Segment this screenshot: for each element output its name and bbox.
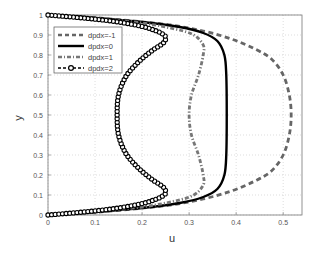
x-tick-label: 0.3 [184,219,194,226]
circle-marker-icon [46,13,50,17]
y-tick-label: 0.6 [33,92,43,99]
x-axis-label: u [169,232,175,244]
legend: dpdx=-1 dpdx=0 dpdx=1 dpdx=2 [54,27,122,73]
y-tick-label: 0.7 [33,72,43,79]
chart: 00.10.20.30.40.5 00.10.20.30.40.50.60.70… [0,0,319,255]
x-tick-label: 0.1 [90,219,100,226]
y-tick-label: 0.2 [33,172,43,179]
y-tick-label: 1 [39,12,43,19]
legend-label: dpdx=1 [88,53,113,62]
x-tick-label: 0.4 [231,219,241,226]
x-tick-label: 0.5 [278,219,288,226]
y-tick-label: 0.9 [33,32,43,39]
y-tick-label: 0.5 [33,112,43,119]
legend-label: dpdx=2 [88,64,113,73]
y-tick-label: 0.4 [33,132,43,139]
legend-label: dpdx=-1 [88,31,115,40]
circle-marker-icon [69,66,74,71]
y-tick-label: 0 [39,212,43,219]
y-tick-label: 0.1 [33,192,43,199]
y-tick-label: 0.8 [33,52,43,59]
y-axis-label: y [12,115,24,121]
legend-label: dpdx=0 [88,42,113,51]
x-tick-label: 0 [46,219,50,226]
y-tick-label: 0.3 [33,152,43,159]
x-tick-label: 0.2 [137,219,147,226]
